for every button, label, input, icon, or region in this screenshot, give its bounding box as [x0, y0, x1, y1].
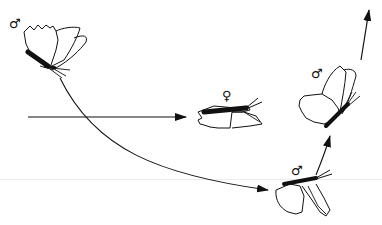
curved-arrow [60, 78, 268, 190]
butterfly-male-approach [276, 170, 332, 216]
rise-arrow-1 [316, 136, 330, 175]
female-symbol: ♀ [222, 89, 232, 102]
male-symbol-start: ♂ [9, 17, 21, 30]
diagram-canvas: ♂ ♀ ♂ ♂ [0, 0, 382, 225]
diagram-svg [0, 0, 382, 225]
rise-arrow-2 [361, 10, 369, 60]
male-symbol-approach: ♂ [291, 164, 303, 177]
butterfly-male-ascend [299, 66, 360, 126]
butterfly-male-start [24, 25, 87, 78]
male-symbol-ascend: ♂ [311, 67, 323, 80]
